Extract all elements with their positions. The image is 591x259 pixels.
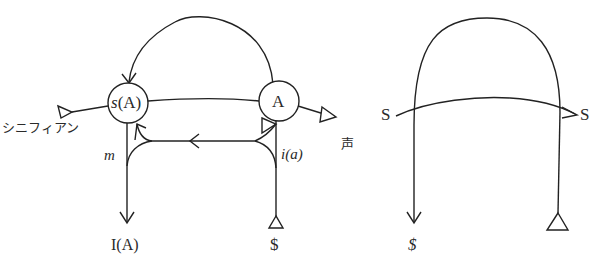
ia-label: i(a) <box>281 147 303 162</box>
S-to-S-arrowhead <box>562 107 577 118</box>
graph-of-desire-diagram <box>0 0 591 259</box>
voice-line <box>298 106 324 114</box>
signifiant-line <box>72 106 108 112</box>
sA-to-A-line <box>148 99 259 101</box>
node-A-label: A <box>272 93 284 110</box>
ia-curve-bottom <box>255 141 276 168</box>
voice-triangle <box>320 107 336 122</box>
curve-to-sA <box>137 124 152 141</box>
signifiant-label: シニフィアン <box>2 121 79 134</box>
S-right-label: S <box>580 106 589 123</box>
voice-label: 声 <box>341 137 354 150</box>
barred-S-triangle <box>269 216 283 228</box>
right-graph-right-vertical <box>558 112 560 213</box>
m-label: m <box>104 148 115 163</box>
barred-S-label-right-graph: $ <box>408 236 417 253</box>
big-arc <box>414 18 560 125</box>
node-sA-label: s(A) <box>111 94 141 111</box>
node-sA-prefix: s <box>111 93 118 112</box>
IA-label: I(A) <box>111 237 139 253</box>
signifiant-triangle <box>58 106 72 118</box>
S-left-label: S <box>381 106 390 123</box>
top-arc-A-to-sA <box>129 17 273 84</box>
node-sA-suffix: (A) <box>118 93 142 112</box>
barred-S-label-left-graph: $ <box>270 236 279 253</box>
m-curve <box>127 141 152 166</box>
right-graph-triangle <box>547 213 568 230</box>
S-to-S-curve <box>396 98 575 116</box>
